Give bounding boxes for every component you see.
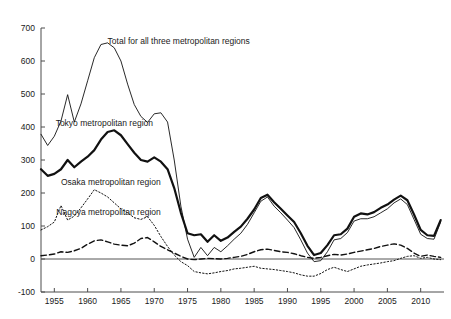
y-tick-label: 300 (21, 155, 35, 165)
x-tick-label: 2010 (411, 296, 430, 306)
x-tick-label: 2000 (345, 296, 364, 306)
y-tick-label: 200 (21, 188, 35, 198)
line-chart: -1000100200300400500600700 1955196019651… (0, 0, 451, 319)
x-axis-tick-labels: 1955196019651970197519801985199019952000… (45, 296, 431, 306)
x-tick-label: 1970 (145, 296, 164, 306)
series-label-nagoya: Nagoya metropolitan region (56, 207, 161, 217)
x-tick-label: 1975 (178, 296, 197, 306)
series-label-osaka: Osaka metropolitan region (61, 177, 161, 187)
axis-layer (41, 28, 444, 292)
x-tick-label: 1955 (45, 296, 64, 306)
axis-ticks (41, 28, 421, 292)
y-tick-label: 0 (30, 254, 35, 264)
x-tick-label: 1965 (111, 296, 130, 306)
x-tick-label: 2005 (378, 296, 397, 306)
x-tick-label: 1980 (211, 296, 230, 306)
series-line-nagoya (41, 238, 441, 260)
y-tick-label: 700 (21, 23, 35, 33)
x-tick-label: 1985 (245, 296, 264, 306)
chart-container: -1000100200300400500600700 1955196019651… (0, 0, 451, 319)
series-annotations: Total for all three metropolitan regions… (56, 36, 250, 218)
series-line-tokyo (41, 130, 441, 255)
series-line-total (41, 43, 441, 262)
axis-spines (41, 28, 444, 292)
y-tick-label: 100 (21, 221, 35, 231)
y-tick-label: -100 (18, 287, 35, 297)
x-tick-label: 1995 (311, 296, 330, 306)
x-tick-label: 1960 (78, 296, 97, 306)
series-label-tokyo: Tokyo metropolitan region (56, 118, 154, 128)
x-tick-label: 1990 (278, 296, 297, 306)
y-axis-tick-labels: -1000100200300400500600700 (18, 23, 35, 297)
y-tick-label: 400 (21, 122, 35, 132)
series-layer (41, 43, 441, 276)
y-tick-label: 600 (21, 56, 35, 66)
series-label-total: Total for all three metropolitan regions (108, 36, 250, 46)
y-tick-label: 500 (21, 89, 35, 99)
